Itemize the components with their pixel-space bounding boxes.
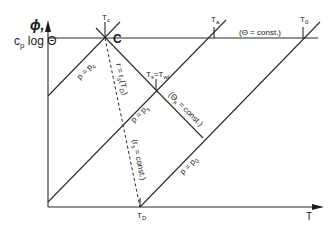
td-label: TD bbox=[137, 211, 147, 221]
p-ps-label: p = ps bbox=[129, 103, 151, 125]
p-p0-line bbox=[140, 22, 320, 207]
r-rs-td-label: r = rs(TD) bbox=[113, 63, 130, 97]
rs-const-label: (rs = const.) bbox=[129, 139, 147, 182]
y-axis-label: ϕ, cp log Θ bbox=[14, 17, 56, 50]
ts-twl-label: Ts=Twl bbox=[146, 70, 169, 80]
y-axis-arrow-icon bbox=[45, 20, 51, 32]
theta-s-const-label: (Θs = const.) bbox=[166, 90, 205, 129]
p-pc-label: p = pc bbox=[75, 60, 97, 82]
svg-text:ϕ,: ϕ, bbox=[30, 17, 45, 33]
svg-text:cp log Θ: cp log Θ bbox=[14, 34, 56, 50]
p-p0-label: p = p0 bbox=[178, 154, 201, 177]
ta-label: Ta bbox=[211, 15, 220, 25]
thermodynamic-diagram: ϕ, cp log Θ T C Tc Ts=Twl Ta T0 TD (Θ = … bbox=[0, 0, 336, 228]
point-c-label: C bbox=[113, 32, 122, 46]
x-axis-arrow-icon bbox=[312, 204, 324, 210]
p-pc-line bbox=[48, 22, 120, 96]
t0-label: T0 bbox=[300, 15, 309, 25]
theta-const-label: (Θ = const.) bbox=[239, 28, 281, 37]
tc-label: Tc bbox=[102, 13, 110, 23]
x-axis-label: T bbox=[306, 211, 312, 222]
